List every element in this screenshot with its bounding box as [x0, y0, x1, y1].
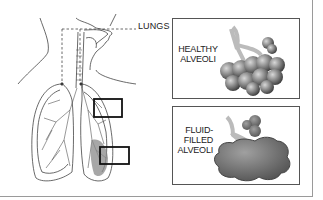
head-outline [18, 18, 48, 84]
lungs-label: LUNGS [138, 21, 170, 31]
healthy-alveoli-illustration [173, 19, 301, 100]
callout-leader [62, 29, 136, 82]
alveoli-cluster [220, 54, 285, 96]
healthy-alveoli-panel: HEALTHY ALVEOLI [172, 18, 300, 99]
fluid-alveoli-panel: FLUID- FILLED ALVEOLI [172, 106, 300, 185]
fluid-mass [215, 137, 290, 181]
fluid-alveoli-illustration [173, 107, 301, 186]
left-lung [32, 84, 74, 181]
